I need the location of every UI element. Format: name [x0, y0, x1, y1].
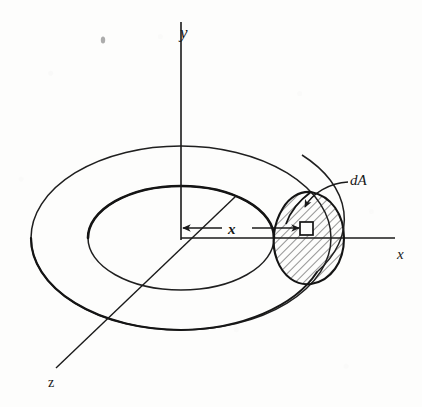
x-axis-label: x: [397, 247, 404, 262]
area-element-label: dA: [350, 173, 367, 188]
figure-canvas: y x z x dA: [0, 0, 422, 407]
z-axis-line: [56, 196, 236, 368]
scan-speck-artifact: [101, 36, 105, 43]
cross-section-group: [268, 155, 354, 293]
outer-rim-front-arc: [31, 238, 181, 330]
coordinate-axes-group: [56, 22, 395, 368]
torus-diagram-svg: [0, 0, 422, 407]
z-axis-label: z: [48, 376, 54, 390]
x-dimension-label: x: [228, 222, 236, 237]
y-axis-label: y: [180, 24, 188, 41]
area-element-square: [300, 222, 313, 235]
